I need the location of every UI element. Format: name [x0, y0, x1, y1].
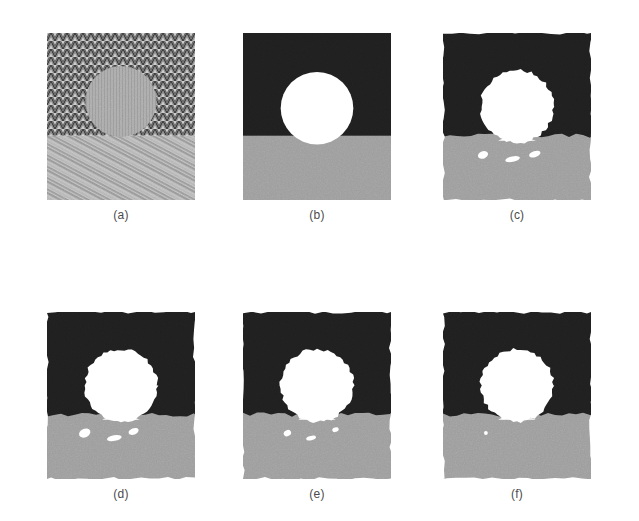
panel-image-d [47, 312, 195, 479]
panel-caption-b: (b) [243, 208, 391, 222]
panel-d: (d) [47, 312, 195, 505]
panel-caption-c: (c) [443, 208, 591, 222]
panel-c: (c) [443, 33, 591, 226]
panel-caption-e: (e) [243, 487, 391, 501]
panel-e: (e) [243, 312, 391, 505]
panel-image-e [243, 312, 391, 479]
panel-caption-f: (f) [443, 487, 591, 501]
panel-image-a [47, 33, 195, 200]
panel-caption-a: (a) [47, 208, 195, 222]
panel-caption-d: (d) [47, 487, 195, 501]
panel-image-f [443, 312, 591, 479]
panel-b: (b) [243, 33, 391, 226]
panel-f: (f) [443, 312, 591, 505]
panel-image-c [443, 33, 591, 200]
figure-panel-grid: (a)(b)(c)(d)(e)(f) [0, 0, 639, 521]
panel-image-b [243, 33, 391, 200]
panel-a: (a) [47, 33, 195, 226]
